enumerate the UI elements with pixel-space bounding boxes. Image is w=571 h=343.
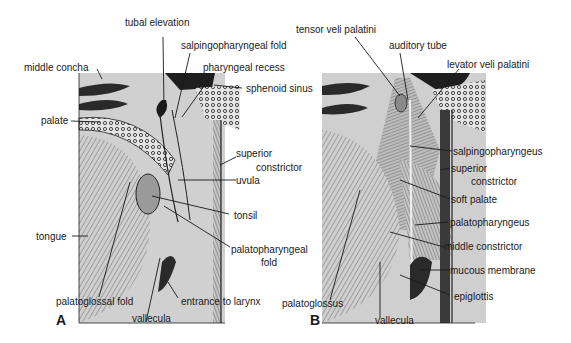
label-constrictor-b: constrictor xyxy=(471,176,517,187)
label-soft-palate: soft palate xyxy=(451,194,497,205)
label-levator-veli-palatini: levator veli palatini xyxy=(447,59,529,70)
label-salpingopharyngeus: salpingopharyngeus xyxy=(453,146,543,157)
label-palatopharyngeal: palatopharyngeal xyxy=(231,244,308,255)
label-tongue: tongue xyxy=(36,231,67,242)
anatomy-figure: tubal elevation salpingopharyngeal fold … xyxy=(0,0,571,343)
label-uvula: uvula xyxy=(236,175,260,186)
label-palatoglossus: palatoglossus xyxy=(282,298,343,309)
label-palate: palate xyxy=(41,115,68,126)
label-palatopharyngeus: palatopharyngeus xyxy=(450,217,530,228)
label-palatoglossal-fold: palatoglossal fold xyxy=(56,296,133,307)
label-auditory-tube: auditory tube xyxy=(389,40,447,51)
label-vallecula-b: vallecula xyxy=(375,315,414,326)
panel-letter-b: B xyxy=(310,313,320,327)
label-epiglottis: epiglottis xyxy=(454,291,493,302)
label-superior: superior xyxy=(236,148,272,159)
label-middle-concha: middle concha xyxy=(24,62,88,73)
label-constrictor: constrictor xyxy=(256,162,302,173)
label-tubal-elevation: tubal elevation xyxy=(125,17,190,28)
label-mucous-membrane: mucous membrane xyxy=(450,265,536,276)
label-vallecula: vallecula xyxy=(132,313,171,324)
label-superior-b: superior xyxy=(451,163,487,174)
label-pharyngeal-recess: pharyngeal recess xyxy=(203,62,285,73)
label-salpingopharyngeal-fold: salpingopharyngeal fold xyxy=(181,40,287,51)
label-entrance-to-larynx: entrance to larynx xyxy=(181,296,261,307)
label-sphenoid-sinus: sphenoid sinus xyxy=(246,83,313,94)
panel-letter-a: A xyxy=(56,313,66,327)
label-tonsil: tonsil xyxy=(234,210,257,221)
label-tensor-veli-palatini: tensor veli palatini xyxy=(296,24,376,35)
label-fold: fold xyxy=(261,257,277,268)
label-middle-constrictor: middle constrictor xyxy=(444,241,522,252)
